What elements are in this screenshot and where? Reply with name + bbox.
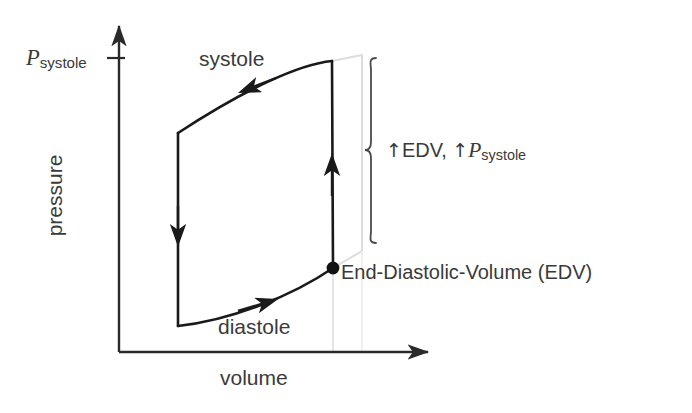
edv-point-label: End-Diastolic-Volume (EDV) bbox=[341, 262, 592, 282]
up-arrow-icon: ↑ bbox=[386, 139, 402, 161]
up-arrow-icon-2: ↑ bbox=[452, 139, 468, 161]
ghost-loop-path bbox=[332, 55, 362, 268]
pv-loop-figure: Psystole pressure volume systole diastol… bbox=[0, 0, 692, 413]
pv-loop-canvas bbox=[0, 0, 692, 413]
systole-direction-arrow bbox=[248, 78, 276, 89]
p-symbol: P bbox=[26, 45, 40, 70]
y-axis-tick-label: Psystole bbox=[26, 47, 87, 70]
systole-curve-label: systole bbox=[199, 48, 264, 69]
brace-annotation-label: ↑EDV, ↑Psystole bbox=[386, 140, 526, 163]
p-subscript-2: systole bbox=[481, 147, 526, 163]
diastole-direction-arrow bbox=[238, 302, 268, 311]
x-axis-label: volume bbox=[220, 367, 288, 388]
systole-curve bbox=[178, 61, 332, 133]
pv-loop-path-group bbox=[178, 61, 333, 326]
p-subscript: systole bbox=[40, 54, 87, 71]
diastole-curve-label: diastole bbox=[218, 316, 290, 337]
range-brace bbox=[365, 58, 376, 243]
flow-direction-arrows bbox=[178, 78, 332, 311]
ghost-loop-outline bbox=[332, 55, 362, 352]
edv-token: EDV, bbox=[402, 139, 447, 161]
edv-point-marker bbox=[327, 262, 340, 275]
p-symbol-2: P bbox=[468, 138, 481, 162]
y-axis-label: pressure bbox=[44, 136, 65, 256]
